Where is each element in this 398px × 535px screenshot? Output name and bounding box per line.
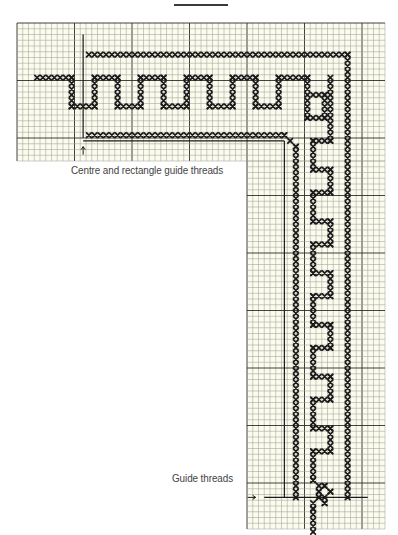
cross-stitch-chart [0,0,398,535]
caption-guide-threads: Guide threads [172,472,233,484]
caption-centre-guide: Centre and rectangle guide threads [71,164,223,176]
